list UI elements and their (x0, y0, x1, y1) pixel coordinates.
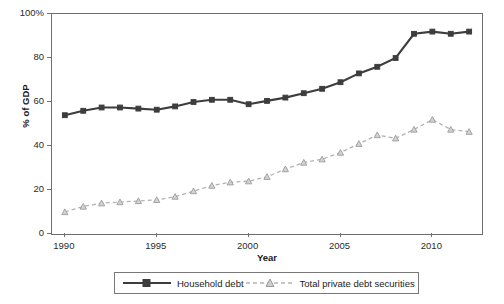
data-point (393, 56, 398, 61)
data-point (264, 174, 270, 180)
data-point (154, 107, 159, 112)
data-point (118, 105, 123, 110)
data-point (81, 108, 86, 113)
y-tick-label: 80 (0, 51, 44, 62)
y-tick-mark (47, 13, 51, 14)
chart-container: % of GDP 020406080100% 19901995200020052… (0, 0, 504, 304)
legend-label-household-debt: Household debt (177, 278, 244, 289)
y-tick-label: 20 (0, 183, 44, 194)
data-point (283, 95, 288, 100)
legend-swatch-household-debt (121, 277, 173, 289)
data-point (448, 31, 453, 36)
data-point (429, 117, 435, 123)
data-point (228, 97, 233, 102)
x-tick-label: 1990 (39, 240, 89, 251)
y-tick-mark (47, 57, 51, 58)
y-tick-label: 40 (0, 139, 44, 150)
data-point (374, 132, 380, 138)
y-axis-label: % of GDP (20, 76, 31, 136)
y-tick-label: 100% (0, 7, 44, 18)
data-point (412, 31, 417, 36)
data-point (430, 29, 435, 34)
data-point (411, 126, 417, 132)
data-point (209, 183, 215, 189)
x-tick-mark (431, 233, 432, 237)
plot-svg (52, 14, 482, 234)
x-tick-mark (340, 233, 341, 237)
y-tick-mark (47, 101, 51, 102)
x-tick-mark (156, 233, 157, 237)
y-tick-mark (47, 145, 51, 146)
data-point (356, 141, 362, 147)
data-point (393, 135, 399, 141)
data-point (375, 64, 380, 69)
data-point (338, 80, 343, 85)
legend-entry-total-private-debt-securities: Total private debt securities (244, 277, 415, 289)
x-tick-label: 2010 (406, 240, 456, 251)
data-point (467, 29, 472, 34)
data-point (246, 102, 251, 107)
y-tick-label: 0 (0, 227, 44, 238)
data-point (136, 106, 141, 111)
data-point (301, 91, 306, 96)
x-tick-label: 2005 (315, 240, 365, 251)
data-point (62, 113, 67, 118)
x-tick-label: 1995 (131, 240, 181, 251)
data-point (209, 97, 214, 102)
y-tick-mark (47, 233, 51, 234)
data-point (265, 99, 270, 104)
legend-label-total-private-debt-securities: Total private debt securities (300, 278, 415, 289)
y-tick-mark (47, 189, 51, 190)
data-point (173, 104, 178, 109)
data-point (337, 150, 343, 156)
data-point (99, 105, 104, 110)
legend-entry-household-debt: Household debt (121, 277, 244, 289)
x-tick-label: 2000 (223, 240, 273, 251)
data-point (282, 166, 288, 172)
series-line-1 (65, 120, 469, 212)
data-point (320, 86, 325, 91)
plot-area (51, 13, 483, 235)
x-axis-label: Year (51, 252, 483, 263)
y-tick-label: 60 (0, 95, 44, 106)
data-point (191, 100, 196, 105)
x-tick-mark (248, 233, 249, 237)
data-point (356, 71, 361, 76)
chart-legend: Household debt Total private debt securi… (114, 272, 419, 294)
x-tick-mark (64, 233, 65, 237)
data-point (154, 197, 160, 203)
legend-swatch-total-private-debt-securities (244, 277, 296, 289)
